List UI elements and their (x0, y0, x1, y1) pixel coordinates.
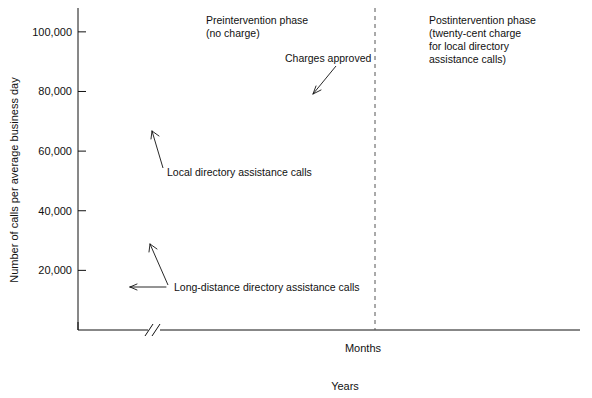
annotation-postintervention-phase-l2: (twenty-cent charge (429, 27, 521, 39)
annotation-charges-approved: Charges approved (285, 52, 372, 64)
charges-approved-leader-line (313, 66, 336, 94)
longdistance-series-leader-line (150, 244, 168, 285)
y-tick-label: 40,000 (38, 205, 72, 217)
local-series-arrowhead (151, 131, 159, 139)
y-axis-title: Number of calls per average business day (8, 77, 20, 283)
x-axis-title-years: Years (331, 380, 359, 392)
annotation-postintervention-phase: Postintervention phase (429, 14, 536, 26)
local-series-leader-line (152, 131, 163, 168)
annotation-postintervention-phase-l3: for local directory (429, 40, 510, 52)
x-axis-title-months: Months (345, 342, 382, 354)
annotation-postintervention-phase-l4: assistance calls) (429, 53, 506, 65)
y-tick-label: 20,000 (38, 264, 72, 276)
annotation-local-series-label: Local directory assistance calls (167, 166, 312, 178)
longdistance-series-left-arrow (130, 284, 166, 290)
y-tick-label: 100,000 (32, 26, 72, 38)
y-tick-label: 80,000 (38, 85, 72, 97)
annotation-longdistance-series-label: Long-distance directory assistance calls (174, 281, 360, 293)
y-tick-label: 60,000 (38, 145, 72, 157)
annotation-preintervention-phase: Preintervention phase (206, 14, 308, 26)
directory-assistance-calls-chart: Number of calls per average business day… (0, 0, 592, 398)
chart-figure: Number of calls per average business day… (0, 0, 592, 398)
annotation-preintervention-phase-sub: (no charge) (206, 27, 260, 39)
